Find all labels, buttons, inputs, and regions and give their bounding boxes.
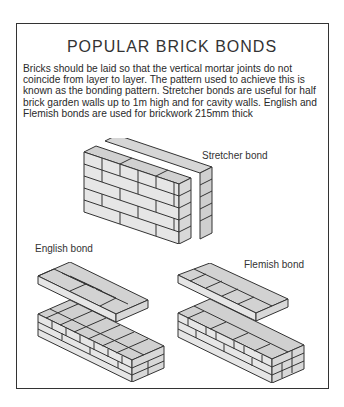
- stretcher-bond-illustration: [80, 138, 220, 244]
- page-title: POPULAR BRICK BONDS: [0, 38, 344, 56]
- english-bond-label: English bond: [35, 243, 93, 254]
- intro-paragraph: Bricks should be laid so that the vertic…: [23, 63, 323, 119]
- stretcher-bond-label: Stretcher bond: [202, 150, 268, 161]
- flemish-bond-illustration: [176, 263, 310, 383]
- english-bond-illustration: [36, 262, 170, 382]
